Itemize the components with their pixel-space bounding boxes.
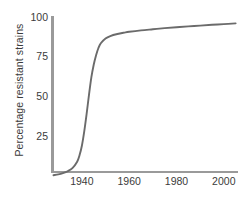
resistance-curve-line: [54, 23, 236, 175]
y-tick-label: 100: [22, 12, 48, 23]
x-tick-label: 1940: [60, 176, 104, 187]
x-tick-label: 1980: [155, 176, 199, 187]
x-tick-label: 2000: [202, 176, 246, 187]
y-axis-line: [51, 16, 54, 173]
y-tick-label: 50: [22, 91, 48, 102]
x-axis-line: [52, 171, 238, 173]
y-tick-label: 75: [22, 51, 48, 62]
y-tick-labels: 25 50 75 100: [22, 0, 48, 200]
y-tick-label: 25: [22, 131, 48, 142]
chart-figure: Percentage resistant strains 25 50 75 10…: [0, 0, 246, 200]
x-tick-label: 1960: [107, 176, 151, 187]
